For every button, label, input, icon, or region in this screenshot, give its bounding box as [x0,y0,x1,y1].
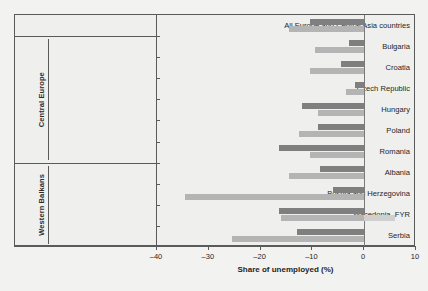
bar-series-1 [318,124,365,130]
bar-series-1 [320,166,364,172]
bar-series-1 [333,187,364,193]
x-tick [260,246,261,250]
bar-series-2 [289,26,364,32]
x-axis-title: Share of unemployed (%) [156,265,415,274]
bar-series-2 [289,173,364,179]
x-tick [415,246,416,250]
group-separator [15,163,157,164]
group-bracket [48,166,49,244]
plot-area [157,15,416,247]
bar-series-2 [318,110,365,116]
bar-series-1 [341,61,364,67]
group-title-text: Western Balkans [37,166,46,244]
x-tick [156,246,157,250]
group-separator [15,36,157,37]
x-tick-label: 10 [411,252,419,261]
bar-series-1 [297,229,364,235]
x-tick [208,246,209,250]
zero-reference-line [364,15,365,247]
bar-series-2 [310,68,364,74]
bar-series-1 [349,40,365,46]
x-tick [311,246,312,250]
bar-series-1 [279,145,364,151]
bar-series-1 [302,103,364,109]
bar-series-2 [310,152,364,158]
chart-root: All Europe and Central Asia countriesBul… [0,0,428,291]
bar-series-1 [355,82,364,88]
x-tick-label: –30 [202,252,215,261]
group-bracket [48,39,49,160]
plot-frame: All Europe and Central Asia countriesBul… [14,14,415,246]
bar-series-2 [185,194,364,200]
bar-series-1 [279,208,364,214]
x-tick [363,246,364,250]
bar-series-2 [299,131,364,137]
bar-series-1 [310,19,364,25]
bar-series-2 [315,47,364,53]
bar-series-2 [281,215,364,221]
bar-series-2 [232,236,364,242]
x-axis-title-text: Share of unemployed (%) [237,265,333,274]
x-tick-label: –40 [150,252,163,261]
x-axis-line [14,246,415,247]
bar-extra [364,215,395,221]
x-tick-label: 0 [361,252,365,261]
x-tick-label: –20 [253,252,266,261]
group-title-text: Central Europe [37,39,46,160]
bar-series-2 [346,89,364,95]
x-tick-label: –10 [305,252,318,261]
